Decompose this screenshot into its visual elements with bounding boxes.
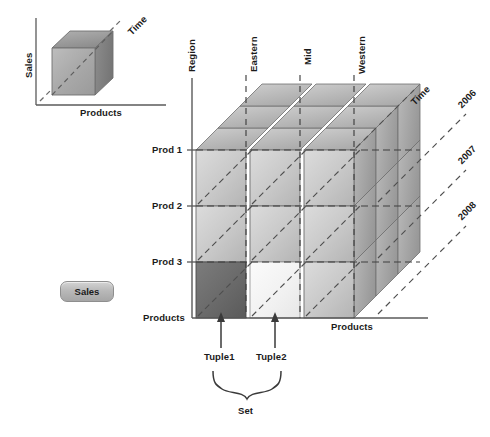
mini-axis-x-label: Products bbox=[80, 108, 122, 118]
set-brace bbox=[213, 371, 281, 399]
tuple2-label: Tuple2 bbox=[256, 352, 287, 362]
olap-cube-diagram bbox=[0, 0, 490, 437]
set-label: Set bbox=[238, 406, 253, 416]
cube-cell bbox=[250, 150, 300, 206]
mini-cube-group bbox=[36, 18, 166, 105]
sales-badge[interactable]: Sales bbox=[60, 281, 114, 302]
product-tick-prod2: Prod 2 bbox=[152, 201, 182, 211]
mini-axis-y-label: Sales bbox=[24, 53, 34, 78]
tuple2-cell[interactable] bbox=[250, 262, 300, 318]
cube-cell bbox=[304, 206, 354, 262]
cube-cell bbox=[304, 262, 354, 318]
figure-canvas: Sales Products Time Sales Region Eastern… bbox=[0, 0, 490, 437]
region-tick-western: Western bbox=[357, 36, 367, 74]
cube-cell bbox=[250, 206, 300, 262]
region-axis-label: Region bbox=[187, 39, 197, 72]
region-tick-eastern: Eastern bbox=[249, 36, 259, 72]
cube-cell bbox=[196, 206, 246, 262]
products-origin-label: Products bbox=[143, 313, 185, 323]
tuple1-label: Tuple1 bbox=[204, 352, 235, 362]
cube-cell bbox=[304, 150, 354, 206]
product-tick-prod3: Prod 3 bbox=[152, 257, 182, 267]
product-tick-prod1: Prod 1 bbox=[152, 145, 182, 155]
region-tick-mid: Mid bbox=[303, 48, 313, 65]
cube-cell bbox=[196, 150, 246, 206]
tuple1-cell[interactable] bbox=[196, 262, 246, 318]
products-axis-label: Products bbox=[331, 322, 373, 332]
